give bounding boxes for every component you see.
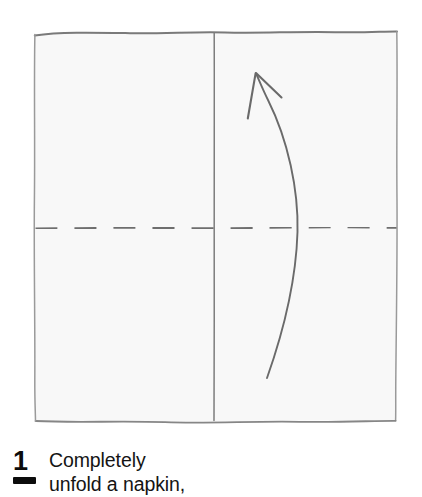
step-caption: 1 Completely unfold a napkin, xyxy=(0,440,422,497)
step-number: 1 xyxy=(13,448,28,474)
napkin-diagram-svg xyxy=(0,0,422,440)
step-instruction-text: Completely unfold a napkin, xyxy=(49,440,185,496)
step-number-underline-bar xyxy=(13,477,36,484)
diagram-illustration xyxy=(0,0,422,440)
napkin-surface xyxy=(34,31,397,421)
step-number-badge: 1 xyxy=(13,440,47,484)
